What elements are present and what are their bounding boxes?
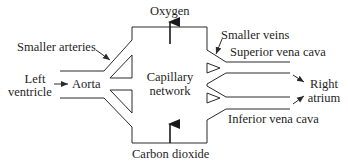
right-atrium-label-line1: Right bbox=[304, 78, 344, 91]
oxygen-label: Oxygen bbox=[150, 5, 190, 18]
left-ventricle-label-line2: ventricle bbox=[8, 86, 52, 99]
capillary-network-label-line2: network bbox=[140, 85, 200, 98]
capillary-network-label-line1: Capillary bbox=[140, 71, 200, 84]
inferior-to-right-atrium-arrow bbox=[293, 96, 304, 104]
smaller-veins-label: Smaller veins bbox=[221, 29, 289, 42]
smaller-arteries-pointer bbox=[96, 50, 110, 60]
inferior-vena-cava-label: Inferior vena cava bbox=[228, 113, 319, 126]
superior-vena-cava-label: Superior vena cava bbox=[230, 46, 326, 59]
carbon-dioxide-label: Carbon dioxide bbox=[132, 148, 209, 161]
smaller-arteries-label: Smaller arteries bbox=[17, 41, 96, 54]
smaller-artery-inner-lower bbox=[110, 90, 132, 113]
superior-to-right-atrium-arrow bbox=[293, 75, 304, 82]
smaller-vein-valve-lower bbox=[207, 93, 220, 103]
superior-vena-cava-lower-wall bbox=[207, 73, 290, 97]
smaller-artery-inner-upper bbox=[110, 55, 132, 78]
smaller-vein-valve-upper bbox=[207, 63, 220, 73]
aorta-label: Aorta bbox=[72, 78, 100, 91]
right-atrium-label-line2: atrium bbox=[304, 92, 344, 105]
